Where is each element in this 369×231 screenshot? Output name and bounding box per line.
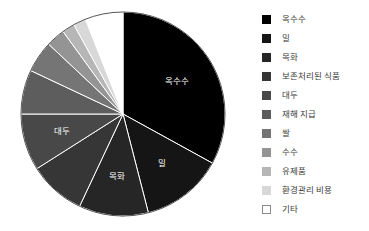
legend-swatch-icon [262,15,271,24]
legend-item-label: 기타 [282,205,298,214]
legend-item-label: 목화 [282,53,298,62]
legend-swatch-icon [262,72,271,81]
pie-slice-label: 밀 [158,158,166,168]
legend-item[interactable]: 보존처리된 식품 [258,67,366,86]
legend-swatch-icon [262,110,271,119]
legend-swatch-icon [262,129,271,138]
pie-chart-plot-area: 옥수수밀목화대두 [14,8,232,224]
legend-item[interactable]: 기타 [258,200,366,219]
pie-slice-label: 대두 [54,126,70,136]
legend-item[interactable]: 수수 [258,143,366,162]
pie-slice-label: 목화 [109,171,125,181]
pie-chart-svg: 옥수수밀목화대두 [14,8,232,224]
pie-slices-group [21,12,225,216]
legend-item-label: 환경관리 비용 [282,186,332,195]
legend-item-label: 옥수수 [282,15,306,24]
legend-swatch-icon [262,91,271,100]
chart-legend: 옥수수밀목화보존처리된 식품대두재해 지급쌀수수유제품환경관리 비용기타 [258,10,366,224]
legend-item[interactable]: 옥수수 [258,10,366,29]
legend-item-label: 수수 [282,148,298,157]
legend-item[interactable]: 목화 [258,48,366,67]
legend-item-label: 대두 [282,91,298,100]
pie-slice-label: 옥수수 [165,76,189,86]
legend-swatch-icon [262,167,271,176]
legend-item-label: 보존처리된 식품 [282,72,340,81]
legend-item-label: 쌀 [282,129,290,138]
pie-chart-figure: 옥수수밀목화대두 옥수수밀목화보존처리된 식품대두재해 지급쌀수수유제품환경관리… [0,0,369,231]
legend-item[interactable]: 쌀 [258,124,366,143]
legend-swatch-icon [262,53,271,62]
legend-item[interactable]: 재해 지급 [258,105,366,124]
legend-item[interactable]: 밀 [258,29,366,48]
legend-item[interactable]: 유제품 [258,162,366,181]
legend-swatch-icon [262,205,271,214]
legend-swatch-icon [262,34,271,43]
legend-item[interactable]: 환경관리 비용 [258,181,366,200]
legend-swatch-icon [262,148,271,157]
legend-swatch-icon [262,186,271,195]
legend-item-label: 유제품 [282,167,306,176]
legend-item-label: 재해 지급 [282,110,316,119]
legend-item-label: 밀 [282,34,290,43]
legend-item[interactable]: 대두 [258,86,366,105]
